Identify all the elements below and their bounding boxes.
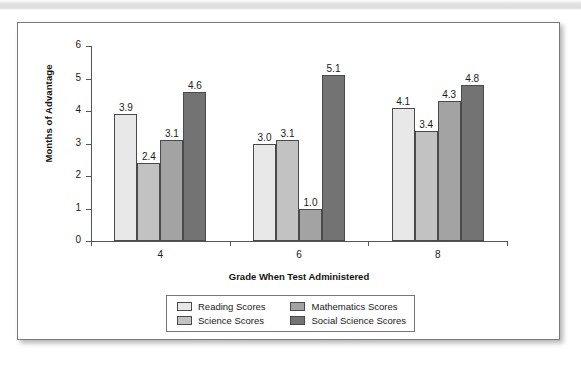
bar-value-label: 3.9 <box>119 102 133 113</box>
y-axis-tick-label: 6 <box>75 39 81 50</box>
x-axis-category-label: 6 <box>296 249 302 260</box>
y-axis-tick: 3 <box>86 144 91 145</box>
bar: 1.0 <box>299 209 322 242</box>
y-axis-tick: 5 <box>86 79 91 80</box>
bar: 3.0 <box>253 144 276 242</box>
legend-item: Social Science Scores <box>290 315 406 326</box>
bar: 2.4 <box>137 163 160 241</box>
y-axis-tick-label: 1 <box>75 202 81 213</box>
chart-plot-area: 0123456 Months of Advantage Grade When T… <box>18 23 561 341</box>
x-axis-category-label: 8 <box>435 249 441 260</box>
legend-swatch-icon <box>290 302 305 311</box>
legend-item: Reading Scores <box>177 301 284 312</box>
y-axis-tick: 6 <box>86 46 91 47</box>
y-axis-tick-label: 2 <box>75 169 81 180</box>
legend-item-label: Reading Scores <box>198 301 266 312</box>
chart-legend: Reading ScoresMathematics ScoresScience … <box>166 295 415 332</box>
bar-value-label: 4.6 <box>188 80 202 91</box>
legend-swatch-icon <box>177 316 192 325</box>
y-axis-tick-label: 5 <box>75 72 81 83</box>
bar-value-label: 1.0 <box>304 197 318 208</box>
figure-frame: 0123456 Months of Advantage Grade When T… <box>17 22 560 340</box>
bar-value-label: 2.4 <box>142 151 156 162</box>
legend-item-label: Mathematics Scores <box>311 301 397 312</box>
x-axis-category-label: 4 <box>158 249 164 260</box>
bar-value-label: 3.1 <box>281 128 295 139</box>
y-axis-title: Months of Advantage <box>43 54 54 174</box>
bar-value-label: 3.1 <box>165 128 179 139</box>
legend-item-label: Social Science Scores <box>311 315 406 326</box>
y-axis-tick: 2 <box>86 176 91 177</box>
x-axis-group-tick <box>507 241 508 246</box>
bar: 3.1 <box>160 140 183 241</box>
legend-item: Science Scores <box>177 315 284 326</box>
bar-value-label: 3.0 <box>258 132 272 143</box>
bar: 4.8 <box>461 85 484 241</box>
bar-value-label: 5.1 <box>327 63 341 74</box>
bar: 4.1 <box>392 108 415 241</box>
y-axis-tick-label: 3 <box>75 137 81 148</box>
bar: 3.9 <box>114 114 137 241</box>
y-axis-tick: 1 <box>86 209 91 210</box>
bar: 3.1 <box>276 140 299 241</box>
x-axis-title: Grade When Test Administered <box>91 271 507 282</box>
x-axis-group-tick <box>230 241 231 246</box>
y-axis-tick: 4 <box>86 111 91 112</box>
bar: 3.4 <box>415 131 438 242</box>
legend-swatch-icon <box>177 302 192 311</box>
bar: 4.6 <box>183 92 206 242</box>
legend-item: Mathematics Scores <box>290 301 406 312</box>
x-axis-line <box>91 241 507 242</box>
x-axis-group-tick <box>368 241 369 246</box>
legend-swatch-icon <box>290 316 305 325</box>
legend-item-label: Science Scores <box>198 315 264 326</box>
x-axis-group-tick <box>91 241 92 246</box>
y-axis-tick-label: 0 <box>75 234 81 245</box>
bar-value-label: 4.3 <box>442 89 456 100</box>
bar: 4.3 <box>438 101 461 241</box>
bar-value-label: 3.4 <box>419 119 433 130</box>
bar-value-label: 4.1 <box>396 96 410 107</box>
page-scan-band <box>0 0 581 10</box>
y-axis-line <box>91 46 92 242</box>
bar-value-label: 4.8 <box>465 73 479 84</box>
y-axis-tick-label: 4 <box>75 104 81 115</box>
bar: 5.1 <box>322 75 345 241</box>
